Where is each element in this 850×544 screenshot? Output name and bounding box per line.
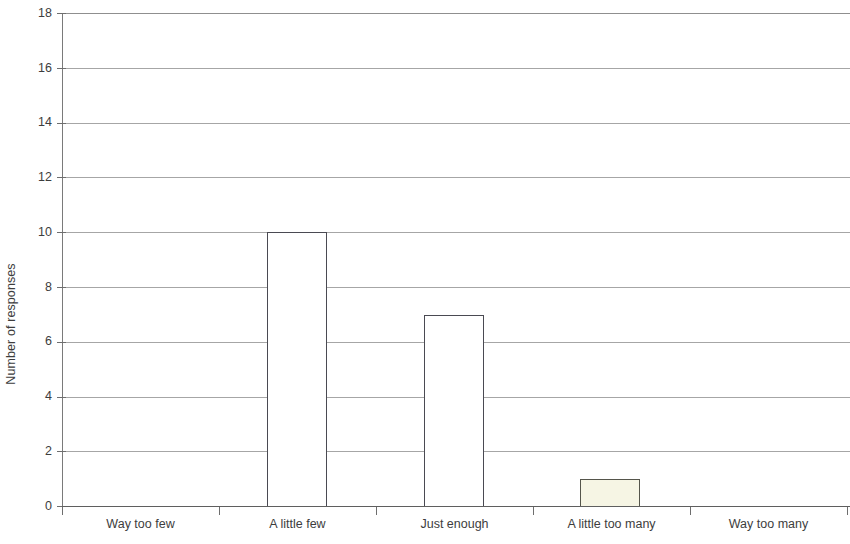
y-axis-tick-labels: 18 16 14 12 10 8 6 4 2 0 [0,0,52,544]
gridline-16 [62,68,850,69]
gridline-18 [62,13,850,14]
x-axis-label-just-enough: Just enough [376,518,533,532]
y-tick-label: 18 [8,7,52,20]
y-axis-tick [57,68,66,69]
y-tick-label: 16 [8,62,52,75]
x-axis-label-way-too-many: Way too many [690,518,847,532]
x-axis-tick [533,507,534,515]
y-axis-tick [57,397,66,398]
x-axis-tick [62,507,63,515]
x-axis-label-a-little-too-many: A little too many [533,518,690,532]
y-tick-label: 4 [8,390,52,403]
gridline-10 [62,232,850,233]
x-axis-tick [219,507,220,515]
gridline-8 [62,287,850,288]
y-tick-label: 10 [8,226,52,239]
bar-a-little-too-many [580,479,640,507]
y-tick-label: 2 [8,445,52,458]
y-axis-tick [57,342,66,343]
bar-chart: Number of responses 18 16 14 12 10 8 6 4… [0,0,850,544]
x-axis-label-way-too-few: Way too few [62,518,219,532]
bar-a-little-few [267,232,327,507]
x-axis-line [62,506,850,507]
gridline-12 [62,177,850,178]
y-axis-tick [57,451,66,452]
y-axis-tick [57,177,66,178]
y-tick-label: 12 [8,171,52,184]
y-tick-label: 8 [8,281,52,294]
x-axis-tick [847,507,848,515]
y-tick-label: 6 [8,335,52,348]
y-tick-label: 14 [8,116,52,129]
y-axis-tick [57,232,66,233]
y-axis-line [62,13,63,507]
plot-area [62,13,850,506]
y-tick-label: 0 [8,500,52,513]
x-axis-tick [376,507,377,515]
y-axis-tick [57,287,66,288]
x-axis-label-a-little-few: A little few [219,518,376,532]
y-axis-tick [57,13,66,14]
bar-just-enough [424,315,484,507]
x-axis-tick [690,507,691,515]
gridline-14 [62,123,850,124]
y-axis-tick [57,123,66,124]
